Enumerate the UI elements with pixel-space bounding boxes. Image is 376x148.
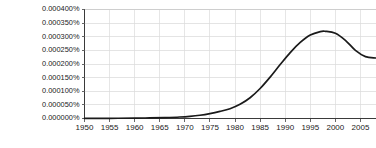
y-axis-tick-labels: 0.000400%0.000350%0.000300%0.000250%0.00… [42,4,80,122]
x-tick-label: 1955 [101,123,119,132]
y-tick-label: 0.000200% [42,59,80,68]
x-tick-label: 1995 [301,123,319,132]
x-tick-label: 1950 [76,123,94,132]
y-tick-label: 0.000350% [42,18,80,27]
y-tick-label: 0.000000% [42,113,80,122]
y-tick-label: 0.000150% [42,73,80,82]
y-tick-label: 0.000250% [42,45,80,54]
series-line-frequency [85,31,376,118]
x-tick-label: 1965 [151,123,169,132]
x-axis-tick-labels: 1950195519601965197019751980198519901995… [76,123,370,132]
data-series-group [85,31,376,118]
x-tick-label: 2000 [326,123,344,132]
y-tick-label: 0.000400% [42,4,80,13]
ngram-frequency-chart: 0.000400%0.000350%0.000300%0.000250%0.00… [0,0,376,148]
x-tick-label: 1970 [176,123,194,132]
x-tick-label: 1960 [126,123,144,132]
x-tick-label: 2005 [352,123,370,132]
chart-plot-area: 0.000400%0.000350%0.000300%0.000250%0.00… [0,0,376,148]
y-tick-label: 0.000050% [42,100,80,109]
y-tick-label: 0.000100% [42,86,80,95]
x-tick-label: 1980 [226,123,244,132]
y-gridlines [85,10,376,105]
x-tick-label: 1975 [201,123,219,132]
plot-frame [84,9,376,119]
x-tick-label: 1990 [276,123,294,132]
x-tick-label: 1985 [251,123,269,132]
y-tick-label: 0.000300% [42,32,80,41]
